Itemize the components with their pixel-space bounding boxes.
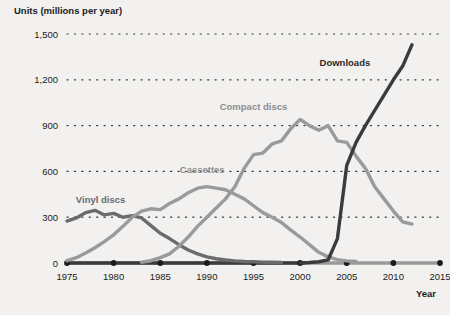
x-tick-marker [204,260,210,266]
x-tick-label: 1985 [150,271,171,282]
x-axis-title: Year [416,288,436,299]
chart-container: 03006009001,2001,500 1975198019851990199… [0,0,450,315]
y-tick-label: 0 [53,258,58,269]
series-label-cassettes: Cassettes [180,164,225,175]
y-tick-label: 1,200 [34,74,58,85]
x-tick-label: 2000 [290,271,311,282]
music-formats-line-chart: 03006009001,2001,500 1975198019851990199… [0,0,450,315]
x-tick-label: 2010 [383,271,404,282]
x-tick-label: 1995 [243,271,264,282]
chart-background [0,0,450,315]
x-tick-marker [437,260,443,266]
series-label-compact-discs: Compact discs [220,101,288,112]
x-tick-label: 2005 [336,271,357,282]
series-label-vinyl-discs: Vinyl discs [76,194,125,205]
series-label-downloads: Downloads [320,57,371,68]
x-tick-label: 1980 [103,271,124,282]
x-tick-marker [111,260,117,266]
x-tick-marker [390,260,396,266]
y-tick-label: 1,500 [34,29,58,40]
x-tick-label: 1975 [56,271,77,282]
x-axis-tick-labels: 197519801985199019952000200520102015 [56,271,450,282]
x-tick-label: 2015 [429,271,450,282]
y-axis-title: Units (millions per year) [14,5,122,16]
x-tick-label: 1990 [196,271,217,282]
y-tick-label: 600 [42,166,58,177]
x-tick-marker [157,260,163,266]
y-tick-label: 900 [42,120,58,131]
y-tick-label: 300 [42,212,58,223]
